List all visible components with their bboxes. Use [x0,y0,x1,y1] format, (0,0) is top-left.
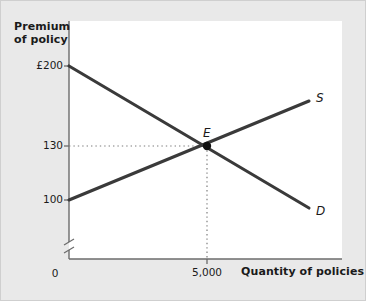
x-axis-title: Quantity of policies [241,266,364,279]
y-tick-label-200: £200 [15,59,63,71]
y-tick-label-130: 130 [15,139,63,151]
demand-curve-label: D [316,204,325,218]
supply-curve-label: S [316,91,324,105]
chart-canvas [1,1,366,301]
equilibrium-point-marker [203,142,211,150]
y-axis-title: Premium of policy [14,21,72,46]
origin-label: 0 [47,267,63,279]
equilibrium-point-label: E [203,126,211,140]
x-tick-label-5000: 5,000 [181,266,233,278]
y-tick-label-100: 100 [15,193,63,205]
supply-demand-chart-figure: Premium of policy Quantity of policies £… [0,0,366,301]
